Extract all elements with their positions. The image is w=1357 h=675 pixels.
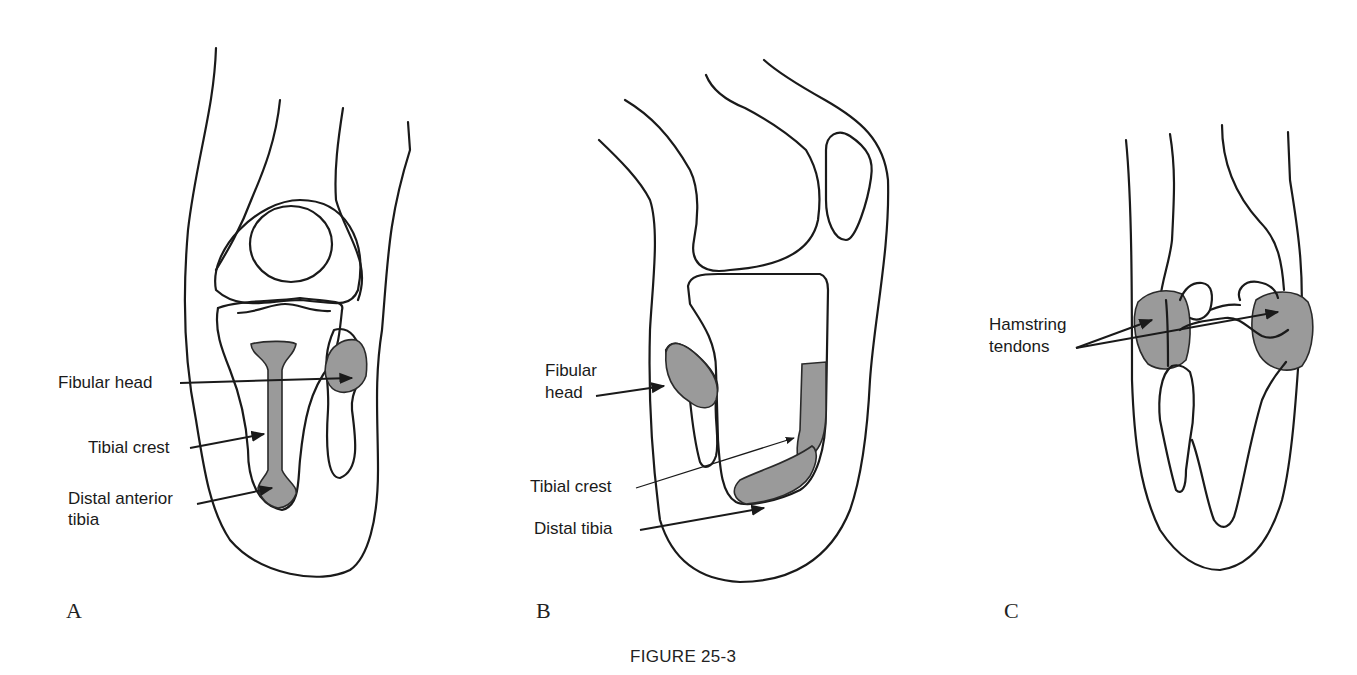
label-hamstring-c-line1: Hamstring (989, 314, 1066, 335)
panel-a-drawing (185, 48, 410, 577)
panel-letter-c: C (1004, 598, 1019, 624)
label-fibular-head-b-line2: head (545, 382, 583, 403)
label-distal-tibia-b: Distal tibia (534, 518, 612, 539)
figure-caption: FIGURE 25-3 (630, 647, 736, 667)
label-distal-anterior-tibia-a-line1: Distal anterior (68, 488, 173, 509)
label-tibial-crest-b: Tibial crest (530, 476, 612, 497)
panel-letter-a: A (66, 598, 82, 624)
figure-artwork (0, 0, 1357, 675)
panel-c-drawing (1126, 125, 1313, 570)
label-hamstring-c-line2: tendons (989, 336, 1050, 357)
label-tibial-crest-a: Tibial crest (88, 437, 170, 458)
panel-b-drawing (599, 60, 888, 582)
label-distal-anterior-tibia-a-line2: tibia (68, 509, 99, 530)
panel-b-leaders (596, 386, 794, 530)
panel-letter-b: B (536, 598, 551, 624)
label-fibular-head-a: Fibular head (58, 372, 153, 393)
label-fibular-head-b-line1: Fibular (545, 360, 597, 381)
